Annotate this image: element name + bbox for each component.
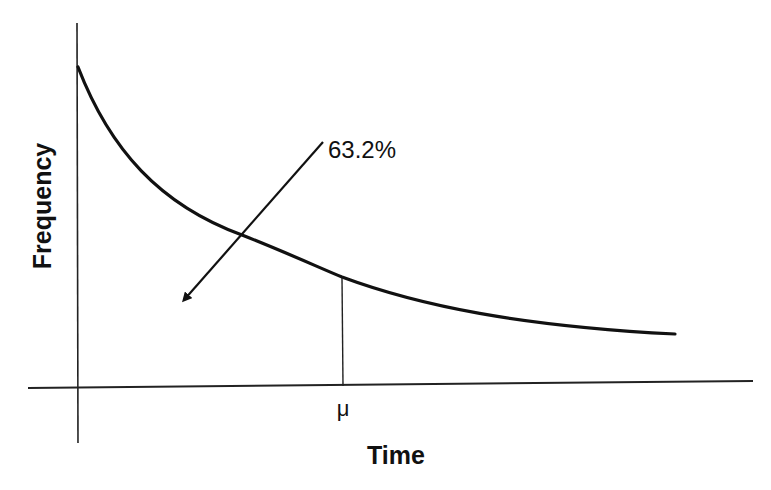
y-axis bbox=[77, 23, 78, 443]
mu-tick-label: μ bbox=[337, 396, 350, 421]
percentage-annotation: 63.2% bbox=[328, 136, 396, 163]
x-axis bbox=[28, 381, 753, 388]
decay-curve bbox=[78, 67, 675, 334]
mu-line bbox=[342, 278, 343, 386]
exponential-chart: 63.2% μ Time Frequency bbox=[0, 0, 771, 490]
annotation-arrow bbox=[184, 142, 323, 300]
x-axis-label: Time bbox=[367, 441, 425, 469]
y-axis-label: Frequency bbox=[28, 143, 56, 270]
